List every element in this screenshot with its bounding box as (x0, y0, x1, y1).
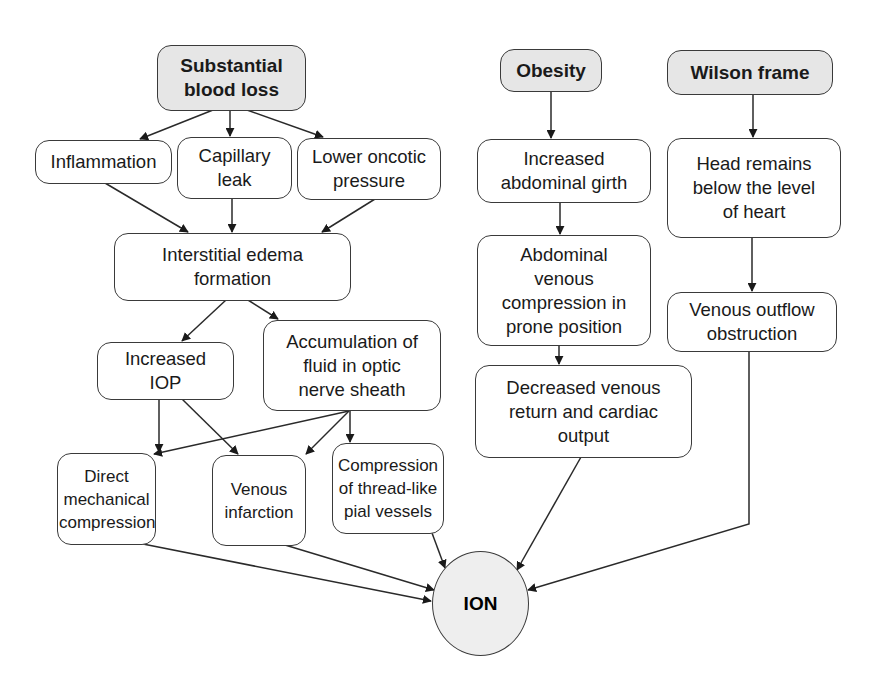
node-accumulation-optic-nerve: Accumulation of fluid in optic nerve she… (263, 320, 441, 411)
node-label: Wilson frame (690, 61, 809, 85)
node-label: Direct mechanical compression (59, 465, 154, 534)
edge-accumulation-direct (154, 411, 349, 454)
node-decreased-venous-return: Decreased venous return and cardiac outp… (475, 365, 692, 458)
node-label: Increased IOP (118, 347, 213, 395)
node-label: Capillary leak (190, 144, 280, 192)
node-label: ION (464, 593, 498, 615)
node-label: Accumulation of fluid in optic nerve she… (280, 330, 425, 402)
node-label: Interstitial edema formation (153, 243, 313, 291)
node-increased-abdominal-girth: Increased abdominal girth (477, 139, 651, 203)
edge-infarction-ion (285, 545, 434, 590)
node-label: Substantial blood loss (164, 54, 299, 102)
node-wilson-frame: Wilson frame (667, 50, 833, 95)
node-head-below-heart: Head remains below the level of heart (667, 138, 841, 238)
node-label: Compression of thread-like pial vessels (335, 454, 441, 523)
edge-bloodloss-inflammation (140, 110, 213, 139)
node-label: Abdominal venous compression in prone po… (494, 243, 634, 339)
edge-pial-ion (432, 533, 445, 568)
edge-oncotic-edema (322, 199, 375, 232)
edge-direct-ion (143, 544, 431, 601)
node-lower-oncotic-pressure: Lower oncotic pressure (297, 138, 441, 200)
node-label: Venous infarction (219, 478, 299, 524)
node-label: Head remains below the level of heart (684, 152, 824, 224)
node-abdominal-venous-compression: Abdominal venous compression in prone po… (477, 235, 651, 346)
node-direct-mechanical-compression: Direct mechanical compression (57, 453, 156, 545)
edge-inflammation-edema (105, 183, 188, 232)
edge-edema-accumulation (248, 300, 278, 319)
node-label: Inflammation (51, 150, 157, 174)
node-pial-vessel-compression: Compression of thread-like pial vessels (332, 443, 444, 534)
node-venous-infarction: Venous infarction (212, 455, 306, 546)
node-inflammation: Inflammation (35, 140, 172, 184)
edge-edema-iop (182, 300, 226, 341)
node-label: Decreased venous return and cardiac outp… (499, 376, 669, 448)
node-ion-outcome: ION (432, 551, 529, 656)
edge-decreased-ion (517, 457, 581, 570)
node-label: Obesity (516, 59, 586, 83)
node-substantial-blood-loss: Substantial blood loss (157, 45, 306, 111)
edge-bloodloss-oncotic (247, 110, 323, 137)
node-venous-outflow-obstruction: Venous outflow obstruction (667, 292, 837, 352)
node-label: Venous outflow obstruction (677, 298, 827, 346)
node-label: Increased abdominal girth (484, 147, 644, 195)
node-label: Lower oncotic pressure (307, 145, 431, 193)
node-interstitial-edema: Interstitial edema formation (114, 233, 351, 301)
node-increased-iop: Increased IOP (97, 342, 234, 400)
node-capillary-leak: Capillary leak (177, 137, 292, 199)
node-obesity: Obesity (500, 49, 602, 92)
